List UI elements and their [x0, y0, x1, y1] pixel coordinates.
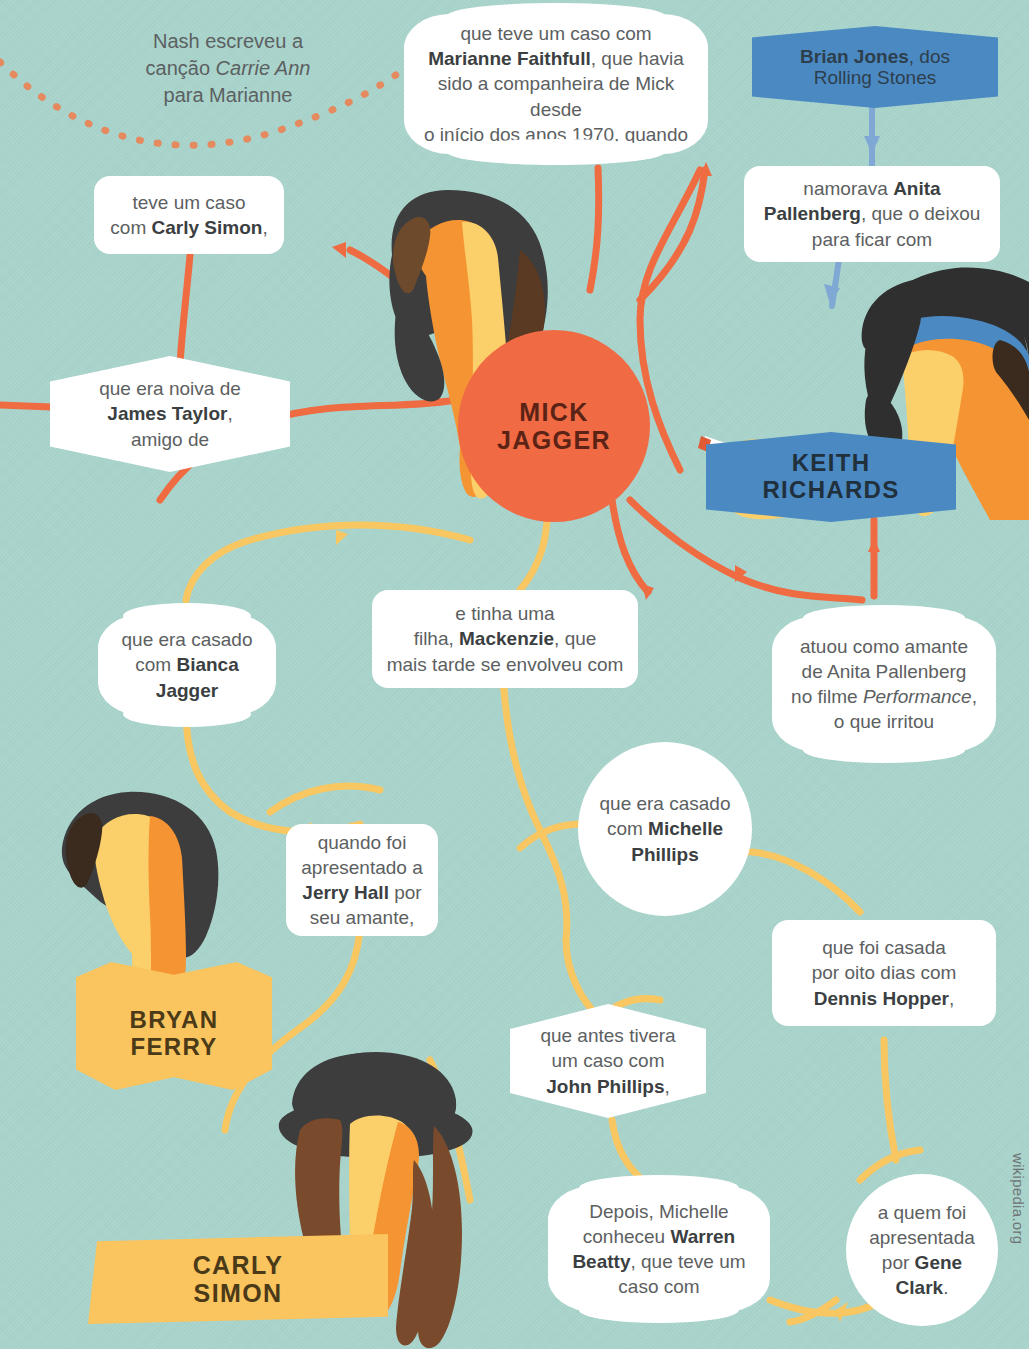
callout-mackenzie: e tinha umafilha, Mackenzie, quemais tar… [372, 590, 638, 688]
banner-name-line2: Rolling Stones [814, 67, 937, 88]
note-nash-line2-pre: canção [146, 57, 216, 79]
nameplate-carly-simon: CARLYSIMON [88, 1234, 388, 1324]
callout-warren-beatty: Depois, Michelleconheceu WarrenBeatty, q… [548, 1186, 770, 1312]
nameplate-line1: KEITH [792, 449, 871, 476]
nameplate-keith-richards: KEITHRICHARDS [706, 432, 956, 522]
nameplate-bryan-ferry: BRYANFERRY [76, 962, 272, 1090]
callout-performance-film: atuou como amantede Anita Pallenbergno f… [772, 616, 996, 752]
note-nash-line3: para Marianne [164, 84, 293, 106]
banner-name-rest: , dos [909, 46, 950, 67]
callout-dennis-hopper: que foi casadapor oito dias comDennis Ho… [772, 920, 996, 1026]
nameplate-line2: FERRY [130, 1033, 217, 1060]
nameplate-line2: SIMON [194, 1279, 283, 1307]
nameplate-line2: JAGGER [497, 426, 611, 454]
callout-bianca-jagger: que era casadocom BiancaJagger [98, 614, 276, 716]
callout-anita-pallenberg: namorava AnitaPallenberg, que o deixoupa… [744, 166, 1000, 262]
nameplate-line1: MICK [519, 398, 588, 426]
callout-michelle-phillips: que era casadocom MichellePhillips [578, 742, 752, 916]
note-nash-line1: Nash escreveu a [153, 30, 303, 52]
callout-carly-simon-affair: teve um casocom Carly Simon, [94, 176, 284, 254]
callout-gene-clark: a quem foiapresentadapor GeneClark. [846, 1174, 998, 1326]
note-nash: Nash escreveu a canção Carrie Ann para M… [96, 28, 360, 109]
nameplate-mick-jagger: MICKJAGGER [458, 330, 650, 522]
nameplate-line1: BRYAN [130, 1006, 219, 1033]
nameplate-line1: CARLY [193, 1251, 284, 1279]
infographic-canvas: .o{stroke:#ef6b42;stroke-width:7;fill:no… [0, 0, 1029, 1349]
banner-name-bold: Brian Jones [800, 46, 909, 67]
callout-jerry-hall: quando foiapresentado aJerry Hall porseu… [286, 824, 438, 936]
nameplate-line2: RICHARDS [762, 476, 899, 503]
note-nash-song-title: Carrie Ann [216, 57, 311, 79]
source-credit: wikipedia.org [1010, 1153, 1027, 1244]
callout-marianne-faithfull: que teve um caso comMarianne Faithfull, … [404, 14, 708, 154]
banner-brian-jones: Brian Jones, dos Rolling Stones [752, 26, 998, 108]
